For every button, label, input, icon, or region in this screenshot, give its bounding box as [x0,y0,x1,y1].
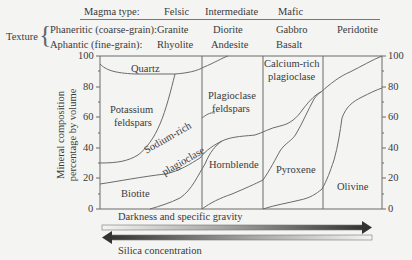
label-hornblende: Hornblende [209,159,259,171]
quartz-boundary [100,56,228,74]
right-tick-40: 40 [388,142,399,154]
label-potassium-1: Potassium [110,104,153,116]
label-plagioclase-1: Plagioclase [208,90,256,102]
right-tick-80: 80 [388,81,399,93]
y-tick-80: 80 [83,81,94,93]
label-calcium-1: Calcium-rich [264,58,319,70]
label-calcium-2: plagioclase [268,71,315,83]
darkness-label: Darkness and specific gravity [118,211,243,223]
label-potassium-2: feldspars [114,117,152,129]
silica-arrow [102,231,372,244]
label-biotite: Biotite [121,188,150,200]
silica-label: Silica concentration [118,245,202,257]
right-tick-0: 0 [388,203,393,215]
left-ticks [96,56,100,209]
label-quartz: Quartz [131,63,160,75]
y-tick-20: 20 [83,172,94,184]
right-tick-100: 100 [388,50,404,62]
label-pyroxene: Pyroxene [276,164,316,176]
right-ticks [382,56,386,209]
right-tick-60: 60 [388,111,399,123]
y-tick-100: 100 [78,50,94,62]
label-plagioclase-2: feldspars [212,103,250,115]
label-olivine: Olivine [337,181,369,193]
y-tick-40: 40 [83,142,94,154]
right-tick-20: 20 [388,172,399,184]
y-tick-60: 60 [83,111,94,123]
y-tick-0: 0 [88,203,93,215]
